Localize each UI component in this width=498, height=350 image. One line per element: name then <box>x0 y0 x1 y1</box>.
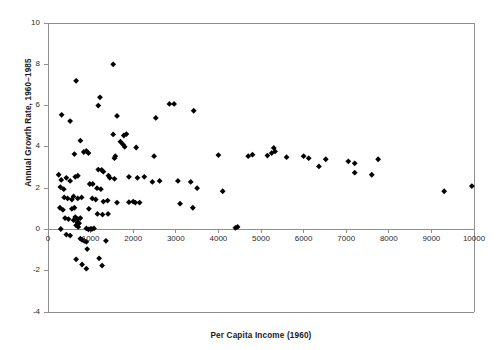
x-tick-label: 1000 <box>71 234 111 243</box>
data-point-marker <box>177 201 183 207</box>
data-point-marker <box>79 262 85 268</box>
data-point-marker <box>375 156 381 162</box>
data-point-marker <box>72 151 78 157</box>
y-tick-label: -2 <box>14 265 40 274</box>
x-tick-label: 4000 <box>198 234 238 243</box>
data-point-marker <box>194 185 200 191</box>
data-point-marker <box>441 188 447 194</box>
data-point-marker <box>345 158 351 164</box>
data-point-marker <box>191 108 197 114</box>
data-point-marker <box>59 112 65 118</box>
data-point-marker <box>73 256 79 262</box>
data-point-marker <box>220 188 226 194</box>
data-point-marker <box>151 153 157 159</box>
data-point-marker <box>190 205 196 211</box>
data-point-marker <box>323 156 329 162</box>
data-point-marker <box>84 246 90 252</box>
scatter-chart-figure: -4-20246810 0100020003000400050006000700… <box>0 0 498 350</box>
data-point-marker <box>95 103 101 109</box>
data-point-marker <box>56 172 62 178</box>
data-point-marker <box>105 211 111 217</box>
data-point-marker <box>114 113 120 119</box>
x-tick-label: 7000 <box>326 234 366 243</box>
data-point-marker <box>141 174 147 180</box>
y-axis-title: Annual Growth Rate, 1960–1985 <box>24 33 33 213</box>
x-tick-label: 3000 <box>156 234 196 243</box>
data-point-marker <box>114 200 120 206</box>
data-point-marker <box>96 255 102 261</box>
data-point-marker <box>58 226 64 232</box>
x-axis-title: Per Capita Income (1960) <box>48 331 474 340</box>
y-tick-label: 10 <box>14 18 40 27</box>
data-point-marker <box>73 78 79 84</box>
data-point-marker <box>301 153 307 159</box>
data-point-marker <box>284 154 290 160</box>
data-point-marker <box>99 263 105 269</box>
data-point-marker <box>105 198 111 204</box>
data-point-marker <box>58 177 64 183</box>
data-point-marker <box>216 152 222 158</box>
data-point-marker <box>77 138 83 144</box>
x-tick-label: 10000 <box>454 234 494 243</box>
x-tick-label: 5000 <box>241 234 281 243</box>
data-point-marker <box>137 200 143 206</box>
data-point-marker <box>83 266 89 272</box>
data-point-marker <box>112 176 118 182</box>
x-tick-label: 8000 <box>369 234 409 243</box>
x-tick-label: 9000 <box>411 234 451 243</box>
data-point-marker <box>352 170 358 176</box>
data-point-marker <box>369 172 375 178</box>
data-point-marker <box>157 178 163 184</box>
data-point-marker <box>175 178 181 184</box>
data-point-marker <box>135 175 141 181</box>
plot-frame <box>48 23 474 312</box>
data-point-marker <box>171 101 177 107</box>
data-point-marker <box>188 179 194 185</box>
data-point-marker <box>110 132 116 138</box>
x-tick-label: 6000 <box>284 234 324 243</box>
data-point-marker <box>133 145 139 151</box>
data-point-marker <box>100 212 106 218</box>
data-point-marker <box>126 174 132 180</box>
axis-ticks <box>44 23 474 312</box>
y-tick-label: -4 <box>14 307 40 316</box>
y-tick-label: 0 <box>14 224 40 233</box>
data-point-marker <box>95 211 101 217</box>
data-point-marker <box>67 118 73 124</box>
data-point-marker <box>90 181 96 187</box>
data-point-marker <box>149 179 155 185</box>
data-point-marker <box>110 61 116 67</box>
data-point-marker <box>100 199 106 205</box>
data-point-marker <box>306 155 312 161</box>
x-tick-label: 2000 <box>113 234 153 243</box>
data-point-marker <box>86 206 92 212</box>
x-tick-label: 0 <box>28 234 68 243</box>
data-point-marker <box>352 160 358 166</box>
data-point-marker <box>153 115 159 121</box>
data-point-marker <box>97 94 103 100</box>
data-point-marker <box>316 164 322 170</box>
plot-canvas <box>0 0 498 350</box>
